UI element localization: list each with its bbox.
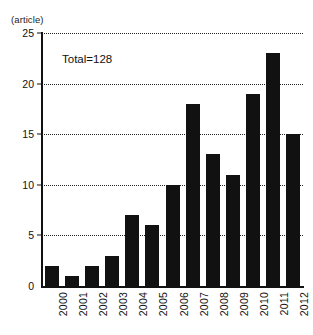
bar-2011 (266, 53, 280, 286)
y-tick-mark-10 (37, 184, 42, 185)
bar-2009 (226, 175, 240, 286)
bar-2003 (105, 256, 119, 286)
x-tick-label-2007: 2007 (198, 292, 210, 316)
y-tick-label-20: 20 (8, 78, 34, 90)
bar-chart: (article) Total=128 05101520252000200120… (0, 0, 313, 335)
y-tick-label-0: 0 (8, 280, 34, 292)
y-tick-label-15: 15 (8, 128, 34, 140)
x-tick-label-2010: 2010 (258, 292, 270, 316)
gridline-15 (42, 134, 303, 135)
bar-2005 (145, 225, 159, 286)
bar-2012 (286, 134, 300, 286)
y-tick-mark-25 (37, 33, 42, 34)
plot-area (42, 33, 303, 286)
x-tick-label-2011: 2011 (278, 292, 290, 315)
x-tick-label-2008: 2008 (218, 292, 230, 316)
x-tick-label-2004: 2004 (137, 292, 149, 316)
bar-2000 (45, 266, 59, 286)
y-tick-mark-15 (37, 134, 42, 135)
bar-2002 (85, 266, 99, 286)
bar-2008 (206, 154, 220, 286)
bar-2006 (166, 185, 180, 286)
x-tick-label-2000: 2000 (57, 292, 69, 316)
y-axis-unit-label: (article) (11, 14, 44, 25)
y-tick-mark-5 (37, 235, 42, 236)
gridline-20 (42, 84, 303, 85)
x-tick-label-2003: 2003 (117, 292, 129, 316)
bar-2007 (186, 104, 200, 286)
x-axis-line (41, 286, 304, 288)
y-tick-label-25: 25 (8, 27, 34, 39)
x-tick-label-2002: 2002 (97, 292, 109, 316)
bar-2004 (125, 215, 139, 286)
bar-2010 (246, 94, 260, 286)
x-tick-label-2012: 2012 (298, 292, 310, 316)
y-tick-mark-20 (37, 83, 42, 84)
y-tick-label-10: 10 (8, 179, 34, 191)
x-tick-label-2005: 2005 (157, 292, 169, 316)
y-tick-label-5: 5 (8, 229, 34, 241)
x-tick-label-2006: 2006 (178, 292, 190, 316)
gridline-25 (42, 33, 303, 34)
x-tick-label-2001: 2001 (77, 292, 89, 316)
bar-2001 (65, 276, 79, 286)
x-tick-label-2009: 2009 (238, 292, 250, 316)
